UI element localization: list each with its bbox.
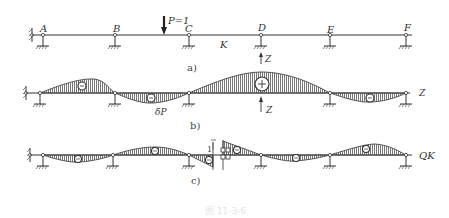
sign-minus-icon — [293, 155, 300, 162]
sign-plus-icon — [363, 146, 370, 153]
panel-a-beam: A B C D E F K P=1 Z a) — [29, 15, 412, 73]
node-label-b: B — [112, 23, 120, 34]
support-icon — [399, 153, 412, 169]
sign-plus-icon — [234, 147, 241, 154]
influence-line-diagram: A B C D E F K P=1 Z a) — [0, 0, 449, 218]
panel-c-influence-line-qk: 1 QK c) — [27, 140, 435, 186]
node-label-a: A — [39, 23, 47, 34]
load-arrow-icon — [161, 16, 167, 35]
support-icon-b — [108, 33, 121, 49]
support-icon-a — [36, 33, 49, 49]
z-label-bottom: Z — [265, 105, 273, 115]
sign-plus-icon — [152, 148, 159, 155]
node-label-e: E — [326, 24, 335, 35]
load-label: P=1 — [167, 15, 189, 26]
support-icon-f — [399, 33, 412, 49]
z-end-label: Z — [418, 88, 426, 98]
support-icon-d — [254, 33, 267, 49]
figure-caption: 图 11-3-6 — [205, 206, 247, 216]
panel-caption-b: b) — [190, 120, 200, 131]
sign-minus-icon — [147, 94, 155, 102]
z-arrow-up-icon — [259, 96, 263, 112]
support-icon-c — [182, 33, 195, 49]
node-label-f: F — [403, 22, 412, 33]
unit-jump-label: 1 — [207, 145, 212, 154]
panel-caption-c: c) — [191, 175, 201, 186]
section-label-k: K — [219, 39, 228, 50]
sign-minus-icon — [366, 94, 374, 102]
sign-plus-icon — [255, 77, 269, 91]
sign-minus-icon — [78, 82, 86, 90]
z-label-a: Z — [264, 54, 272, 64]
qk-end-label: QK — [419, 150, 435, 161]
z-arrow-up-icon — [259, 52, 263, 64]
delta-p-label: δP — [155, 107, 167, 117]
panel-b-influence-line-z: Z δP Z b) — [23, 72, 426, 131]
support-icon-e — [323, 33, 336, 49]
panel-caption-a: a) — [187, 62, 197, 73]
sign-minus-icon — [206, 157, 213, 164]
support-icon — [33, 91, 46, 107]
node-label-d: D — [257, 22, 266, 33]
sign-minus-icon — [75, 156, 82, 163]
